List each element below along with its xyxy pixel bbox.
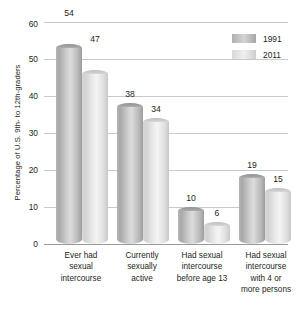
y-tick-20: 20	[10, 165, 38, 175]
y-tick-40: 40	[10, 91, 38, 101]
category-line: intercourse	[46, 273, 116, 284]
category-labels: Ever had sexual intercourse Currently se…	[44, 250, 288, 308]
y-tick-30: 30	[10, 128, 38, 138]
gridline-60	[44, 22, 288, 23]
bar-value-2011-2: 6	[200, 208, 234, 218]
category-line: with 4 or	[228, 273, 300, 284]
bar-value-2011-1: 34	[139, 104, 173, 114]
bar-value-1991-2: 10	[174, 193, 208, 203]
bar-value-2011-3: 15	[261, 174, 295, 184]
bar-1991-had-sexual-intercourse-with-4-or-more-persons	[239, 174, 265, 244]
legend: 1991 2011	[232, 32, 298, 64]
bar-body	[82, 74, 108, 244]
category-line: more persons	[228, 284, 300, 295]
bar-1991-currently-sexually-active	[117, 103, 143, 244]
y-tick-50: 50	[10, 54, 38, 64]
plot-area: 60 50 40 30 20 10 0 1991 2011 54 47	[44, 22, 288, 244]
bar-value-1991-3: 19	[235, 160, 269, 170]
legend-label-2011: 2011	[263, 50, 281, 60]
bar-2011-currently-sexually-active	[143, 118, 169, 244]
bar-body	[143, 122, 169, 244]
legend-swatch-2011-icon	[232, 50, 256, 59]
legend-swatch-1991-icon	[232, 34, 256, 43]
category-line: intercourse	[228, 261, 300, 272]
bar-2011-ever-had-sexual-intercourse	[82, 70, 108, 244]
bar-body	[265, 192, 291, 244]
y-tick-10: 10	[10, 202, 38, 212]
bar-chart: Percentage of U.S. 9th- to 12th-graders …	[0, 0, 300, 309]
bar-value-1991-0: 54	[52, 8, 86, 18]
category-line: sexual	[46, 261, 116, 272]
y-tick-0: 0	[10, 239, 38, 249]
bar-2011-had-sexual-intercourse-before-age-13	[204, 222, 230, 244]
legend-item-2011: 2011	[232, 48, 298, 61]
category-label-0: Ever had sexual intercourse	[46, 250, 116, 284]
category-line: Had sexual	[228, 250, 300, 261]
bar-1991-ever-had-sexual-intercourse	[56, 44, 82, 244]
legend-label-1991: 1991	[263, 34, 282, 44]
bar-body	[117, 107, 143, 244]
legend-item-1991: 1991	[232, 32, 298, 45]
bar-body	[204, 226, 230, 244]
category-label-3: Had sexual intercourse with 4 or more pe…	[228, 250, 300, 296]
bar-value-2011-0: 47	[78, 34, 112, 44]
bar-value-1991-1: 38	[113, 89, 147, 99]
bar-body	[56, 48, 82, 244]
axis-baseline	[44, 244, 288, 245]
y-tick-60: 60	[10, 19, 38, 29]
category-line: Ever had	[46, 250, 116, 261]
bar-body	[239, 178, 265, 244]
bar-2011-had-sexual-intercourse-with-4-or-more-persons	[265, 188, 291, 244]
